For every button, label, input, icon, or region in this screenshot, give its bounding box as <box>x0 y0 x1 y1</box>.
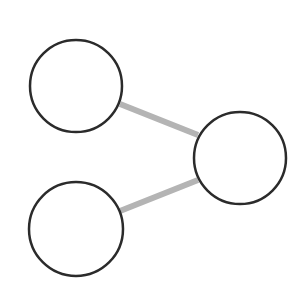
node-right <box>194 112 286 204</box>
diagram-canvas <box>0 0 295 291</box>
edge-bottom-left-right <box>120 180 198 211</box>
node-top-left <box>30 40 122 132</box>
graph-diagram <box>0 0 295 291</box>
node-bottom-left <box>29 182 123 276</box>
edge-top-left-right <box>120 104 198 135</box>
